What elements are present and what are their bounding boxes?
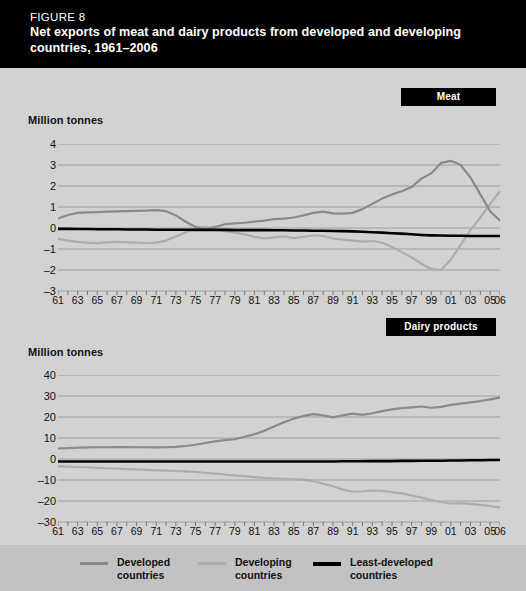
series-line	[58, 398, 500, 449]
x-axis-tick-label: 79	[229, 525, 241, 537]
x-axis-tick-label: 95	[386, 294, 398, 306]
x-axis-tick-label: 85	[288, 525, 300, 537]
y-axis-tick-label: 20	[44, 411, 56, 423]
x-axis-tick-label: 87	[308, 525, 320, 537]
x-axis-tick-label: 67	[111, 294, 123, 306]
chart-svg	[58, 144, 500, 301]
x-axis-tick-label: 83	[268, 525, 280, 537]
x-axis-tick-label: 79	[229, 294, 241, 306]
x-axis-tick-label: 89	[327, 525, 339, 537]
x-axis-tick-label: 06	[494, 294, 506, 306]
x-axis-tick-label: 83	[268, 294, 280, 306]
y-axis-tick-label: –1	[44, 243, 56, 255]
x-axis-tick-label: 93	[366, 525, 378, 537]
y-axis-labels-dairy: 403020100–10–20–30	[6, 375, 56, 522]
x-axis-tick-label: 01	[445, 525, 457, 537]
x-axis-tick-label: 67	[111, 525, 123, 537]
x-axis-labels-meat: 6163656769717375777981838587899193959799…	[0, 294, 526, 310]
y-axis-tick-label: 10	[44, 432, 56, 444]
x-axis-tick-label: 61	[52, 525, 64, 537]
legend-item-least-developed: Least-developed countries	[313, 556, 433, 581]
chart-svg	[58, 375, 500, 532]
legend-item-developed: Developed countries	[80, 556, 170, 581]
x-axis-tick-label: 06	[494, 525, 506, 537]
legend-label-developed: Developed countries	[117, 556, 170, 581]
x-axis-tick-label: 03	[465, 294, 477, 306]
plot-area-meat	[58, 144, 500, 291]
x-axis-tick-label: 75	[190, 294, 202, 306]
legend-label-developing: Developing countries	[235, 556, 292, 581]
x-axis-tick-label: 75	[190, 525, 202, 537]
x-axis-tick-label: 85	[288, 294, 300, 306]
x-axis-tick-label: 61	[52, 294, 64, 306]
legend-item-developing: Developing countries	[198, 556, 292, 581]
y-axis-labels-meat: 43210–1–2–3	[6, 144, 56, 291]
x-axis-tick-label: 77	[209, 525, 221, 537]
x-axis-tick-label: 73	[170, 294, 182, 306]
y-axis-tick-label: 0	[50, 222, 56, 234]
x-axis-tick-label: 99	[425, 294, 437, 306]
y-axis-tick-label: –20	[38, 495, 56, 507]
page-title: Net exports of meat and dairy products f…	[30, 25, 502, 56]
x-axis-tick-label: 91	[347, 525, 359, 537]
series-line	[58, 161, 500, 229]
x-axis-tick-label: 03	[465, 525, 477, 537]
x-axis-tick-label: 99	[425, 525, 437, 537]
series-line	[58, 229, 500, 236]
x-axis-tick-label: 65	[91, 525, 103, 537]
y-axis-tick-label: 30	[44, 390, 56, 402]
x-axis-tick-label: 01	[445, 294, 457, 306]
x-axis-tick-label: 73	[170, 525, 182, 537]
x-axis-tick-label: 81	[249, 525, 261, 537]
y-axis-tick-label: 3	[50, 159, 56, 171]
y-axis-tick-label: –2	[44, 264, 56, 276]
series-line	[58, 460, 500, 461]
figure-header: FIGURE 8 Net exports of meat and dairy p…	[0, 0, 526, 68]
x-axis-tick-label: 97	[406, 525, 418, 537]
legend-label-least-developed: Least-developed countries	[350, 556, 433, 581]
x-axis-tick-label: 91	[347, 294, 359, 306]
figure-number: FIGURE 8	[30, 10, 502, 24]
x-axis-tick-label: 69	[131, 525, 143, 537]
chart-title-badge-dairy: Dairy products	[386, 318, 496, 336]
legend-swatch-least-developed	[313, 562, 341, 566]
x-axis-tick-label: 93	[366, 294, 378, 306]
x-axis-tick-label: 63	[72, 525, 84, 537]
x-axis-tick-label: 97	[406, 294, 418, 306]
x-axis-tick-label: 89	[327, 294, 339, 306]
chart-legend: Developed countries Developing countries…	[0, 545, 526, 591]
x-axis-tick-label: 95	[386, 525, 398, 537]
y-axis-tick-label: 1	[50, 201, 56, 213]
x-axis-tick-label: 63	[72, 294, 84, 306]
x-axis-tick-label: 87	[308, 294, 320, 306]
chart-panel-dairy: Dairy products Million tonnes 403020100–…	[0, 310, 526, 545]
x-axis-tick-label: 65	[91, 294, 103, 306]
y-axis-tick-label: –10	[38, 474, 56, 486]
plot-area-dairy	[58, 375, 500, 522]
x-axis-tick-label: 69	[131, 294, 143, 306]
y-axis-tick-label: 4	[50, 138, 56, 150]
y-axis-tick-label: 2	[50, 180, 56, 192]
x-axis-tick-label: 77	[209, 294, 221, 306]
chart-panel-meat: Meat Million tonnes 43210–1–2–3 61636567…	[0, 68, 526, 310]
y-axis-unit-dairy: Million tonnes	[28, 346, 103, 358]
legend-swatch-developing	[198, 562, 226, 565]
y-axis-unit-meat: Million tonnes	[28, 114, 103, 126]
x-axis-labels-dairy: 6163656769717375777981838587899193959799…	[0, 525, 526, 541]
figure-page: FIGURE 8 Net exports of meat and dairy p…	[0, 0, 526, 591]
x-axis-tick-label: 71	[150, 294, 162, 306]
charts-area: Meat Million tonnes 43210–1–2–3 61636567…	[0, 68, 526, 545]
x-axis-tick-label: 71	[150, 525, 162, 537]
legend-swatch-developed	[80, 562, 108, 565]
y-axis-tick-label: 40	[44, 369, 56, 381]
y-axis-tick-label: 0	[50, 453, 56, 465]
chart-title-badge-meat: Meat	[401, 88, 496, 106]
x-axis-tick-label: 81	[249, 294, 261, 306]
